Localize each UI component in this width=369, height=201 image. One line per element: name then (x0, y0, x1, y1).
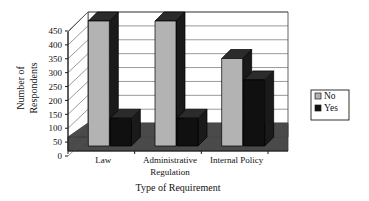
bar-front-face (177, 118, 198, 146)
y-axis-title-line1: Number of (15, 66, 26, 110)
y-axis-tick-label: 100 (49, 123, 63, 133)
bar-yes-2 (244, 71, 274, 146)
x-axis-category-label: Administrative (143, 155, 197, 165)
x-axis-category-label: Law (95, 155, 111, 165)
legend-swatch-no (315, 93, 321, 99)
bar-front-face (110, 118, 131, 146)
x-axis-title: Type of Requirement (136, 182, 221, 193)
bar-front-face (88, 21, 109, 146)
y-axis-tick-label: 250 (49, 82, 63, 92)
bar-side-face (265, 71, 274, 146)
bar-yes-1 (177, 109, 207, 146)
y-axis-tick-label: 200 (49, 96, 63, 106)
bar-front-face (155, 21, 176, 146)
bar-front-face (244, 80, 265, 146)
y-axis-tick-label: 350 (49, 54, 63, 64)
bar-yes-0 (110, 109, 140, 146)
chart-container: 050100150200250300350400450 LawAdministr… (0, 0, 369, 201)
x-axis-category-label: Regulation (150, 167, 190, 177)
y-axis-tick-label: 300 (49, 68, 63, 78)
legend-label-yes: Yes (324, 103, 338, 113)
y-axis-tick-label: 450 (49, 26, 63, 36)
legend-label-no: No (324, 91, 336, 101)
y-axis-title-line2: Respondents (28, 62, 39, 113)
legend[interactable]: NoYes (311, 90, 349, 120)
x-axis-category-label: Internal Policy (210, 155, 264, 165)
bar-front-face (222, 59, 243, 147)
y-axis-tick-label: 400 (49, 40, 63, 50)
bar-chart: 050100150200250300350400450 LawAdministr… (0, 0, 369, 201)
y-axis-tick-label: 150 (49, 110, 63, 120)
legend-swatch-yes (315, 105, 321, 111)
y-axis-tick-label: 50 (53, 137, 63, 147)
y-axis-tick-label: 0 (58, 151, 63, 161)
